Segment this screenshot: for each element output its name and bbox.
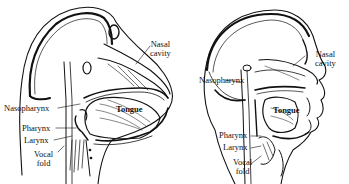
left-label-pharynx: Pharynx xyxy=(22,124,50,133)
left-label-vocal-fold: Vocal fold xyxy=(34,150,53,168)
left-label-nasal-cavity: Nasal cavity xyxy=(150,40,171,58)
right-label-pharynx: Pharynx xyxy=(219,131,247,140)
human-head-drawing xyxy=(175,0,349,184)
left-label-larynx: Larynx xyxy=(24,136,49,145)
right-panel-human: Nasal cavity Nasopharynx Tongue Pharynx … xyxy=(175,0,349,184)
right-label-larynx: Larynx xyxy=(223,143,248,152)
right-label-vocal-fold: Vocal fold xyxy=(233,158,252,176)
right-label-tongue: Tongue xyxy=(273,106,300,115)
left-label-tongue: Tongue xyxy=(116,105,143,114)
primate-head-drawing xyxy=(0,0,175,184)
left-panel-primate: Nasal cavity Nasopharynx Tongue Pharynx … xyxy=(0,0,175,184)
right-label-nasal-cavity: Nasal cavity xyxy=(315,50,336,68)
right-label-nasopharynx: Nasopharynx xyxy=(199,76,244,85)
left-label-nasopharynx: Nasopharynx xyxy=(4,104,49,113)
